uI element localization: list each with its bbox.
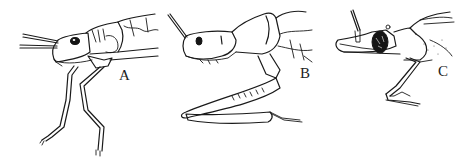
- panel-label-c: C: [438, 64, 448, 79]
- panel-c-drawing: [336, 10, 454, 106]
- panel-label-b: B: [300, 66, 310, 81]
- panel-b-drawing: [168, 11, 312, 123]
- panel-label-a: A: [119, 68, 130, 83]
- panel-a-drawing: [20, 14, 158, 156]
- illustration-figure: [0, 0, 469, 161]
